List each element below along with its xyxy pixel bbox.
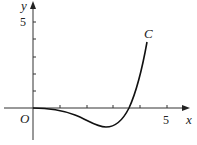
origin-label: O [20, 111, 30, 126]
x-tick-label-5: 5 [163, 113, 169, 127]
x-axis-arrow-icon [182, 105, 190, 111]
curve-c [33, 42, 147, 127]
y-axis-label: y [19, 0, 27, 13]
y-axis-arrow-icon [30, 1, 36, 9]
curve-label: C [144, 26, 153, 41]
x-axis-label: x [185, 112, 192, 127]
curve-plot: y 5 O 5 x C [0, 0, 197, 145]
y-tick-label-5: 5 [20, 15, 26, 29]
